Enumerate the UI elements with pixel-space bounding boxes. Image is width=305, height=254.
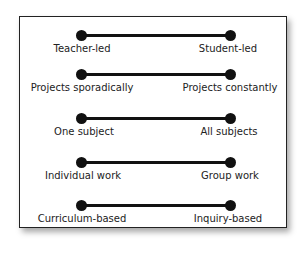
right-label: Inquiry-based	[194, 213, 262, 224]
right-endpoint-dot	[225, 113, 236, 124]
continuum-row: Curriculum-based Inquiry-based	[20, 206, 286, 236]
continuum-line	[82, 34, 230, 37]
continuum-line	[82, 73, 230, 76]
continuum-row: Teacher-led Student-led	[20, 36, 286, 66]
continuum-line	[82, 161, 230, 164]
left-endpoint-dot	[76, 200, 87, 211]
right-endpoint-dot	[225, 200, 236, 211]
right-label: Projects constantly	[183, 82, 278, 93]
left-label: Projects sporadically	[31, 82, 134, 93]
left-label: Curriculum-based	[38, 213, 127, 224]
right-label: Group work	[201, 170, 259, 181]
left-label: One subject	[54, 126, 114, 137]
continuum-line	[82, 117, 230, 120]
left-endpoint-dot	[76, 69, 87, 80]
right-endpoint-dot	[225, 69, 236, 80]
left-endpoint-dot	[76, 30, 87, 41]
continuum-figure: Teacher-led Student-led Projects sporadi…	[19, 16, 287, 228]
right-label: Student-led	[199, 43, 257, 54]
left-endpoint-dot	[76, 157, 87, 168]
right-label: All subjects	[200, 126, 257, 137]
continuum-row: One subject All subjects	[20, 119, 286, 149]
right-endpoint-dot	[225, 30, 236, 41]
continuum-row: Projects sporadically Projects constantl…	[20, 75, 286, 105]
left-label: Teacher-led	[53, 43, 110, 54]
continuum-row: Individual work Group work	[20, 163, 286, 193]
continuum-line	[82, 204, 230, 207]
right-endpoint-dot	[225, 157, 236, 168]
left-endpoint-dot	[76, 113, 87, 124]
left-label: Individual work	[45, 170, 121, 181]
